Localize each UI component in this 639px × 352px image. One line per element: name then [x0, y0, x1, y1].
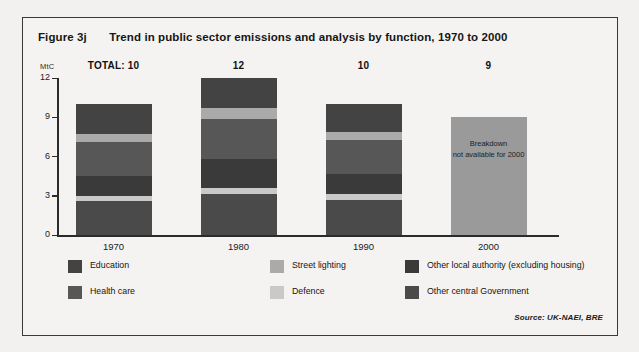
legend-label: Other central Government [427, 286, 529, 296]
source-note: Source: UK-NAEI, BRE [514, 313, 603, 322]
legend-label: Other local authority (excluding housing… [427, 260, 584, 270]
legend-swatch-icon [405, 286, 419, 299]
legend-swatch-icon [405, 260, 419, 273]
legend-swatch-icon [68, 260, 82, 273]
figure-panel: Figure 3j Trend in public sector emissio… [0, 0, 639, 352]
legend-label: Education [90, 260, 129, 270]
legend-label: Health care [90, 286, 135, 296]
chart-legend: EducationHealth careStreet lightingDefen… [0, 0, 639, 352]
legend-swatch-icon [270, 286, 284, 299]
legend-swatch-icon [270, 260, 284, 273]
legend-label: Street lighting [292, 260, 346, 270]
legend-swatch-icon [68, 286, 82, 299]
legend-label: Defence [292, 286, 325, 296]
